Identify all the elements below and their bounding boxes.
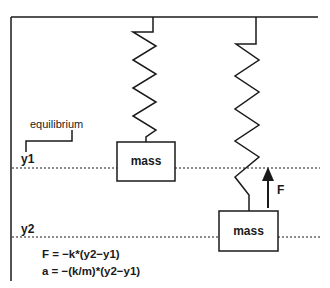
mass-label-left: mass <box>117 155 175 167</box>
equilibrium-label: equilibrium <box>30 119 83 130</box>
force-label: F <box>277 184 284 196</box>
spring-right <box>235 17 259 211</box>
y1-label: y1 <box>21 153 34 165</box>
spring-mass-diagram: equilibrium y1 y2 mass mass F F = −k*(y2… <box>0 0 330 288</box>
equilibrium-bracket <box>26 130 72 152</box>
y2-label: y2 <box>21 223 34 235</box>
spring-left <box>133 17 156 142</box>
acceleration-equation: a = −(k/m)*(y2−y1) <box>42 266 140 278</box>
force-arrow-icon <box>262 167 274 208</box>
mass-label-right: mass <box>219 225 278 237</box>
diagram-graphics <box>0 0 330 288</box>
force-equation: F = −k*(y2−y1) <box>42 249 120 261</box>
